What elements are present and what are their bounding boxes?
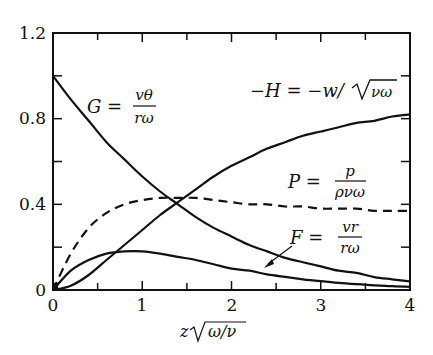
y-tick-1.2: 1.2 bbox=[19, 23, 46, 43]
label-F-lhs: F = bbox=[289, 227, 323, 248]
x-axis-label-z: z bbox=[179, 322, 189, 341]
arrow-head-icon bbox=[264, 259, 274, 268]
label-P-num: p bbox=[345, 162, 355, 180]
x-tick-2: 2 bbox=[227, 295, 238, 315]
x-axis-label: z ω/ν bbox=[179, 322, 246, 341]
label-F-den: rω bbox=[340, 239, 359, 257]
x-tick-1: 1 bbox=[137, 295, 148, 315]
label-P-den: ρνω bbox=[334, 183, 365, 201]
y-tick-0.4: 0.4 bbox=[19, 194, 46, 214]
origin-marker bbox=[52, 283, 58, 290]
label-G-den: rω bbox=[134, 109, 153, 127]
label-G: G = vθ rω bbox=[87, 86, 156, 127]
x-tick-0: 0 bbox=[48, 295, 59, 315]
label-F: F = vr rω bbox=[264, 218, 362, 268]
label-H-text: −H = −w/ bbox=[250, 80, 346, 101]
y-tick-labels: 0 0.4 0.8 1.2 bbox=[19, 23, 46, 300]
label-H-root: νω bbox=[371, 83, 392, 101]
y-tick-0.8: 0.8 bbox=[19, 108, 46, 128]
chart: 0 0.4 0.8 1.2 0 1 2 3 4 G = vθ rω −H = −… bbox=[0, 0, 433, 355]
label-G-num: vθ bbox=[135, 86, 153, 104]
label-P: P = p ρνω bbox=[287, 162, 366, 201]
x-tick-3: 3 bbox=[316, 295, 327, 315]
y-tick-0: 0 bbox=[35, 280, 46, 300]
x-axis-label-root: ω/ν bbox=[208, 322, 236, 341]
label-F-num: vr bbox=[342, 218, 358, 236]
label-G-lhs: G = bbox=[87, 96, 122, 117]
x-tick-4: 4 bbox=[405, 295, 416, 315]
x-tick-labels: 0 1 2 3 4 bbox=[48, 295, 416, 315]
label-H: −H = −w/ νω bbox=[250, 80, 397, 101]
label-P-lhs: P = bbox=[287, 171, 321, 192]
